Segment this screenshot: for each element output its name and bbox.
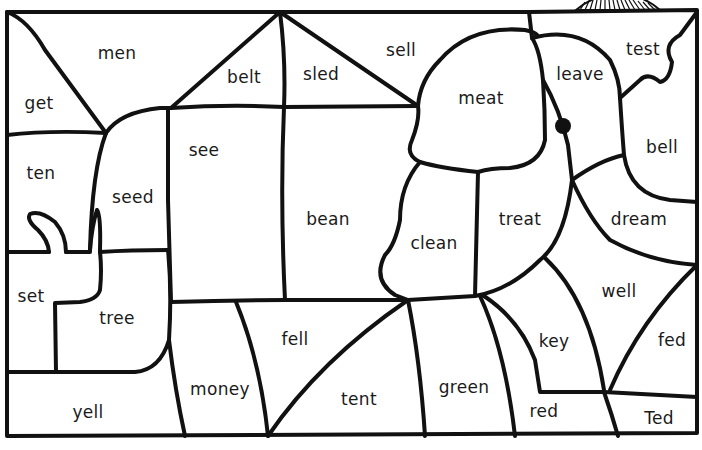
region-green[interactable]: green — [439, 377, 490, 397]
region-men[interactable]: men — [98, 43, 137, 63]
region-red[interactable]: red — [530, 401, 559, 421]
region-key[interactable]: key — [539, 331, 570, 351]
region-well[interactable]: well — [601, 281, 636, 301]
region-belt[interactable]: belt — [227, 67, 261, 87]
region-leave[interactable]: leave — [556, 64, 604, 84]
region-bell[interactable]: bell — [646, 137, 678, 157]
region-tree[interactable]: tree — [99, 308, 134, 328]
eye-dot — [555, 118, 571, 134]
region-money[interactable]: money — [190, 379, 250, 399]
region-seed[interactable]: seed — [112, 187, 154, 207]
region-bean[interactable]: bean — [306, 209, 350, 229]
region-fed[interactable]: fed — [658, 330, 686, 350]
region-ted[interactable]: Ted — [644, 408, 674, 428]
hatched-shape-icon — [576, 0, 660, 10]
region-yell[interactable]: yell — [72, 402, 103, 422]
region-fell[interactable]: fell — [281, 329, 308, 349]
region-ten[interactable]: ten — [27, 163, 56, 183]
region-sled[interactable]: sled — [303, 64, 339, 84]
region-set[interactable]: set — [18, 286, 45, 306]
region-get[interactable]: get — [25, 93, 54, 113]
region-clean[interactable]: clean — [410, 233, 457, 253]
region-see[interactable]: see — [189, 140, 220, 160]
region-sell[interactable]: sell — [386, 40, 416, 60]
region-test[interactable]: test — [626, 39, 660, 59]
region-tent[interactable]: tent — [341, 389, 377, 409]
region-treat[interactable]: treat — [499, 209, 541, 229]
region-meat[interactable]: meat — [458, 88, 503, 108]
region-dream[interactable]: dream — [611, 209, 667, 229]
coloring-page: men get belt sled sell meat leave test b… — [0, 0, 702, 450]
